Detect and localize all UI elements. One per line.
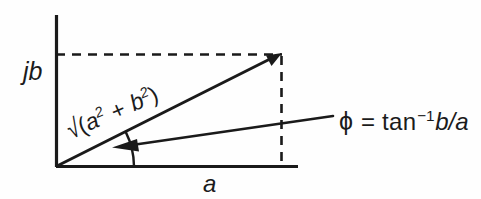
magnitude-plus-sign: +: [107, 95, 130, 124]
arctangent-exponent: −1: [417, 107, 434, 124]
phase-label-leader-line: [132, 116, 333, 145]
phase-ratio-b-over-a: b/a: [435, 108, 468, 135]
diagram-canvas: [0, 0, 481, 199]
real-axis-label: a: [203, 172, 216, 196]
phase-label-leader-arrowhead: [112, 139, 139, 152]
phasor-diagram-figure: jb a √(a2 + b2) ϕ=tan−1b/a: [0, 0, 481, 199]
phase-equals-sign: =: [361, 108, 375, 135]
arctangent-function-name: tan: [382, 108, 416, 135]
imaginary-axis-label: jb: [23, 59, 42, 84]
phi-symbol: ϕ: [339, 107, 353, 135]
phase-angle-label: ϕ=tan−1b/a: [339, 109, 469, 134]
